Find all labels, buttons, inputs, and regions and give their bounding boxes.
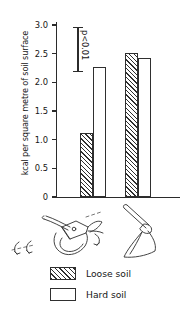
bar-chart-figure: kcal per square metre of soil surface 3.… bbox=[0, 0, 182, 311]
tool-illustration-svg bbox=[0, 200, 182, 262]
x-axis-baseline bbox=[56, 197, 180, 198]
legend-item-loose-soil: Loose soil bbox=[50, 266, 131, 281]
legend-label-hard-soil: Hard soil bbox=[86, 289, 126, 300]
legend-label-loose-soil: Loose soil bbox=[86, 268, 131, 279]
plough-illustration bbox=[12, 212, 103, 255]
legend-swatch-hatched bbox=[50, 267, 76, 280]
significance-bar-bottom-cap bbox=[73, 71, 83, 72]
chart-legend: Loose soil Hard soil bbox=[50, 266, 182, 311]
bar-plough-hard-soil bbox=[93, 67, 106, 197]
legend-item-hard-soil: Hard soil bbox=[50, 287, 126, 302]
spade-illustration bbox=[123, 204, 155, 257]
legend-swatch-open bbox=[50, 288, 76, 301]
tool-illustrations bbox=[0, 200, 182, 262]
p-value-label: p<0.01 bbox=[80, 30, 90, 60]
plot-area: kcal per square metre of soil surface 3.… bbox=[0, 0, 182, 205]
bar-spade-hard-soil bbox=[138, 58, 151, 197]
significance-bar-stem bbox=[77, 27, 78, 72]
bar-series-group bbox=[0, 0, 182, 197]
bar-spade-loose-soil bbox=[125, 53, 138, 197]
bar-plough-loose-soil bbox=[80, 133, 93, 197]
